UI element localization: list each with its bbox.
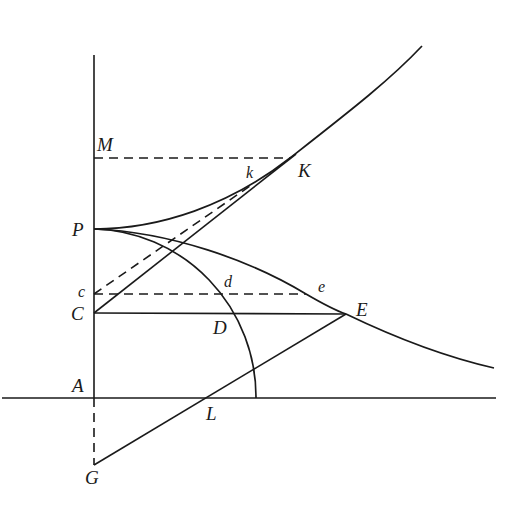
geometric-diagram: MkKPcdeCEDALG — [0, 0, 525, 523]
point-label-P: P — [71, 219, 84, 240]
point-label-e: e — [318, 278, 325, 295]
line-CE — [94, 313, 346, 314]
point-label-C: C — [71, 303, 84, 324]
point-label-d: d — [224, 273, 233, 290]
point-label-M: M — [96, 134, 114, 155]
point-label-K: K — [297, 160, 312, 181]
upper-curve-PK — [94, 46, 422, 229]
lower-curve-PE — [94, 229, 494, 368]
point-label-L: L — [205, 403, 217, 424]
point-label-c: c — [78, 283, 85, 300]
line-CK — [94, 154, 296, 313]
labels-layer: MkKPcdeCEDALG — [70, 134, 368, 488]
lines-layer — [2, 55, 496, 465]
point-label-E: E — [355, 299, 368, 320]
point-label-k: k — [246, 164, 254, 181]
point-label-D: D — [212, 317, 227, 338]
point-label-G: G — [85, 467, 99, 488]
point-label-A: A — [70, 375, 84, 396]
